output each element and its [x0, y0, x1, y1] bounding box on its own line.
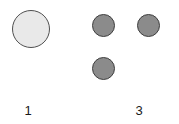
figure-canvas: 13 [0, 0, 179, 124]
data-point-node-1 [12, 10, 50, 48]
data-point-node-3 [137, 14, 160, 37]
x-tick-label-3: 3 [119, 103, 159, 118]
data-point-node-2 [92, 14, 115, 37]
plot-area [0, 0, 179, 96]
data-point-node-4 [92, 57, 115, 80]
x-tick-label-1: 1 [8, 103, 48, 118]
